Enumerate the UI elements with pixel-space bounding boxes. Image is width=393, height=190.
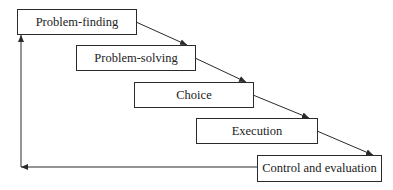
arrow-solving-to-choice bbox=[195, 58, 246, 82]
step-label: Execution bbox=[232, 124, 283, 139]
step-label: Problem-solving bbox=[94, 51, 177, 66]
step-label: Choice bbox=[176, 88, 211, 103]
step-label: Problem-finding bbox=[36, 15, 119, 30]
arrow-finding-to-solving bbox=[136, 22, 187, 45]
arrow-execution-to-control bbox=[317, 131, 373, 155]
step-execution: Execution bbox=[196, 118, 318, 144]
step-label: Control and evaluation bbox=[262, 161, 377, 176]
step-choice: Choice bbox=[134, 82, 254, 108]
step-problem-solving: Problem-solving bbox=[76, 45, 196, 71]
step-problem-finding: Problem-finding bbox=[17, 9, 137, 35]
step-control-and-evaluation: Control and evaluation bbox=[257, 155, 382, 182]
arrow-choice-to-execution bbox=[253, 95, 309, 118]
